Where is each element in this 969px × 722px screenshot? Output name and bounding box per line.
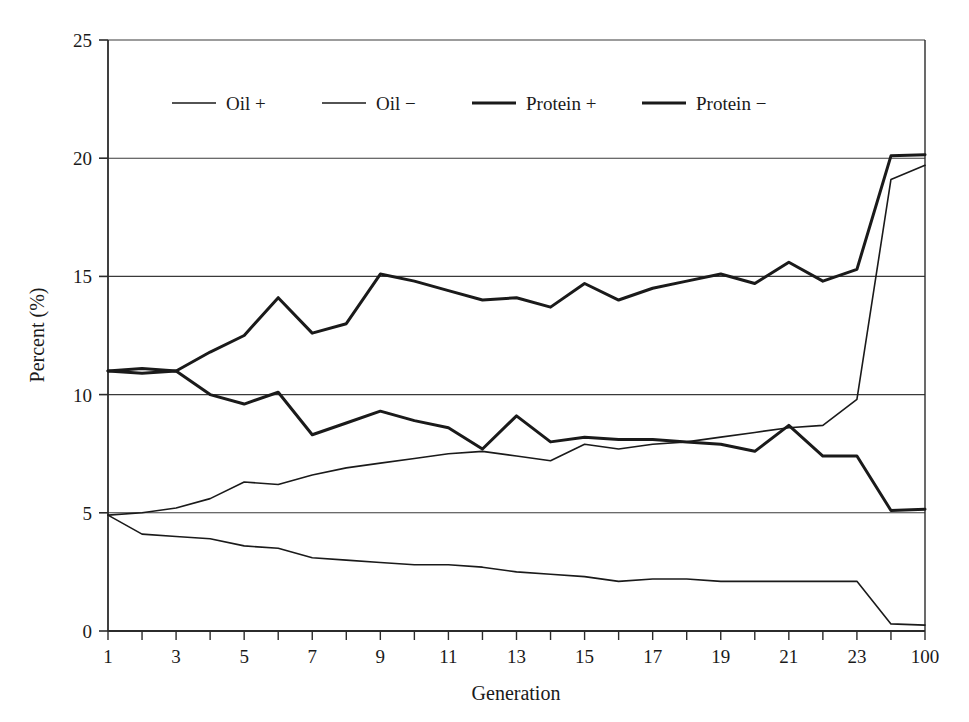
legend-label-protein: Protein + (526, 93, 596, 114)
x-axis-tick-label: 11 (439, 646, 457, 667)
y-axis-tick-label: 5 (83, 503, 93, 524)
x-axis-tick-label: 9 (376, 646, 386, 667)
x-axis-tick-label: 15 (575, 646, 594, 667)
x-axis-tick-label: 5 (239, 646, 249, 667)
x-axis-tick-label: 1 (103, 646, 113, 667)
y-axis-tick-label: 25 (73, 30, 92, 51)
x-axis-tick-label: 100 (911, 646, 940, 667)
line-chart-figure: 0510152025 1357911131517192123100 Oil +O… (0, 0, 969, 722)
x-axis-tick-label: 3 (171, 646, 181, 667)
x-axis-tick-label: 19 (711, 646, 730, 667)
x-axis-tick-label: 23 (847, 646, 866, 667)
chart-background (0, 0, 969, 722)
legend-label-oil: Oil − (376, 93, 416, 114)
y-axis-tick-label: 20 (73, 148, 92, 169)
x-axis-title: Generation (472, 682, 561, 704)
x-axis-tick-label: 13 (507, 646, 526, 667)
x-axis-tick-label: 7 (308, 646, 318, 667)
legend-label-oil: Oil + (226, 93, 266, 114)
y-axis-tick-label: 0 (83, 621, 93, 642)
x-axis-tick-label: 17 (643, 646, 662, 667)
chart-canvas: 0510152025 1357911131517192123100 Oil +O… (0, 0, 969, 722)
y-axis-tick-label: 10 (73, 385, 92, 406)
y-axis-title: Percent (%) (26, 288, 49, 383)
legend-label-protein: Protein − (696, 93, 766, 114)
y-axis-tick-label: 15 (73, 266, 92, 287)
x-axis-tick-label: 21 (779, 646, 798, 667)
